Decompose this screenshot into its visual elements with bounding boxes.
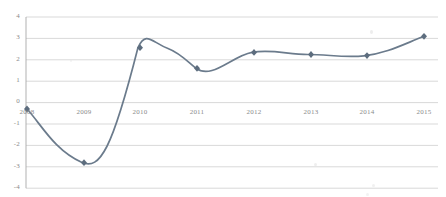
data-markers bbox=[24, 33, 427, 166]
x-tick-label-2013: 2013 bbox=[294, 108, 328, 116]
gridlines bbox=[26, 17, 438, 188]
data-point-2012 bbox=[251, 49, 257, 56]
x-tick-label-2012: 2012 bbox=[237, 108, 271, 116]
x-tick-label-2014: 2014 bbox=[350, 108, 384, 116]
y-tick-label-minus-2: -2 bbox=[4, 140, 20, 148]
y-tick-label-minus-3: -3 bbox=[4, 162, 20, 170]
y-tick-label-minus-1: -1 bbox=[4, 119, 20, 127]
y-tick-label-0: 0 bbox=[4, 97, 20, 105]
y-tick-label-2: 2 bbox=[4, 55, 20, 63]
chart-plot-area bbox=[0, 0, 446, 197]
y-tick-label-minus-4: -4 bbox=[4, 183, 20, 191]
x-tick-label-2009: 2009 bbox=[67, 108, 101, 116]
data-point-2013 bbox=[308, 51, 314, 58]
data-point-2014 bbox=[364, 52, 370, 59]
line-chart: 4 3 2 1 0 -1 -2 -3 -4 2008 2009 2010 201… bbox=[0, 0, 446, 197]
x-tick-label-2011: 2011 bbox=[180, 108, 214, 116]
x-tick-label-2008: 2008 bbox=[10, 108, 44, 116]
x-tick-label-2010: 2010 bbox=[123, 108, 157, 116]
x-tick-label-2015: 2015 bbox=[407, 108, 441, 116]
y-tick-label-4: 4 bbox=[4, 12, 20, 20]
y-tick-label-1: 1 bbox=[4, 76, 20, 84]
data-point-2009 bbox=[81, 159, 87, 166]
y-tick-label-3: 3 bbox=[4, 33, 20, 41]
